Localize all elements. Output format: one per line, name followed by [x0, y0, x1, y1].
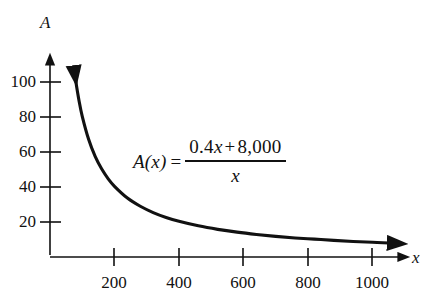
numerator-constant: 8,000 [237, 136, 281, 157]
function-graph-figure: A x 100 80 60 40 20 200 400 600 800 1000… [0, 0, 427, 296]
x-tick-label-800: 800 [278, 274, 338, 291]
numerator-variable: x [214, 136, 223, 157]
numerator-coefficient: 0.4 [189, 136, 214, 157]
y-tick-label-80: 80 [0, 108, 36, 125]
y-tick-label-40: 40 [0, 178, 36, 195]
x-tick-label-600: 600 [213, 274, 273, 291]
x-tick-label-1000: 1000 [342, 274, 402, 291]
x-tick-label-400: 400 [149, 274, 209, 291]
formula-left-side: A(x) [133, 151, 167, 173]
function-formula-annotation: A(x) = 0.4x + 8,000 x [133, 136, 286, 187]
formula-numerator: 0.4x + 8,000 [185, 136, 285, 160]
formula-fraction: 0.4x + 8,000 x [185, 136, 285, 187]
y-axis-label: A [40, 14, 50, 31]
y-tick-label-20: 20 [0, 213, 36, 230]
y-tick-label-60: 60 [0, 143, 36, 160]
formula-equals-sign: = [171, 151, 182, 173]
y-tick-label-100: 100 [0, 73, 36, 90]
numerator-plus: + [225, 136, 236, 157]
formula-denominator: x [227, 162, 243, 187]
x-axis-label: x [412, 249, 420, 266]
x-tick-label-200: 200 [84, 274, 144, 291]
